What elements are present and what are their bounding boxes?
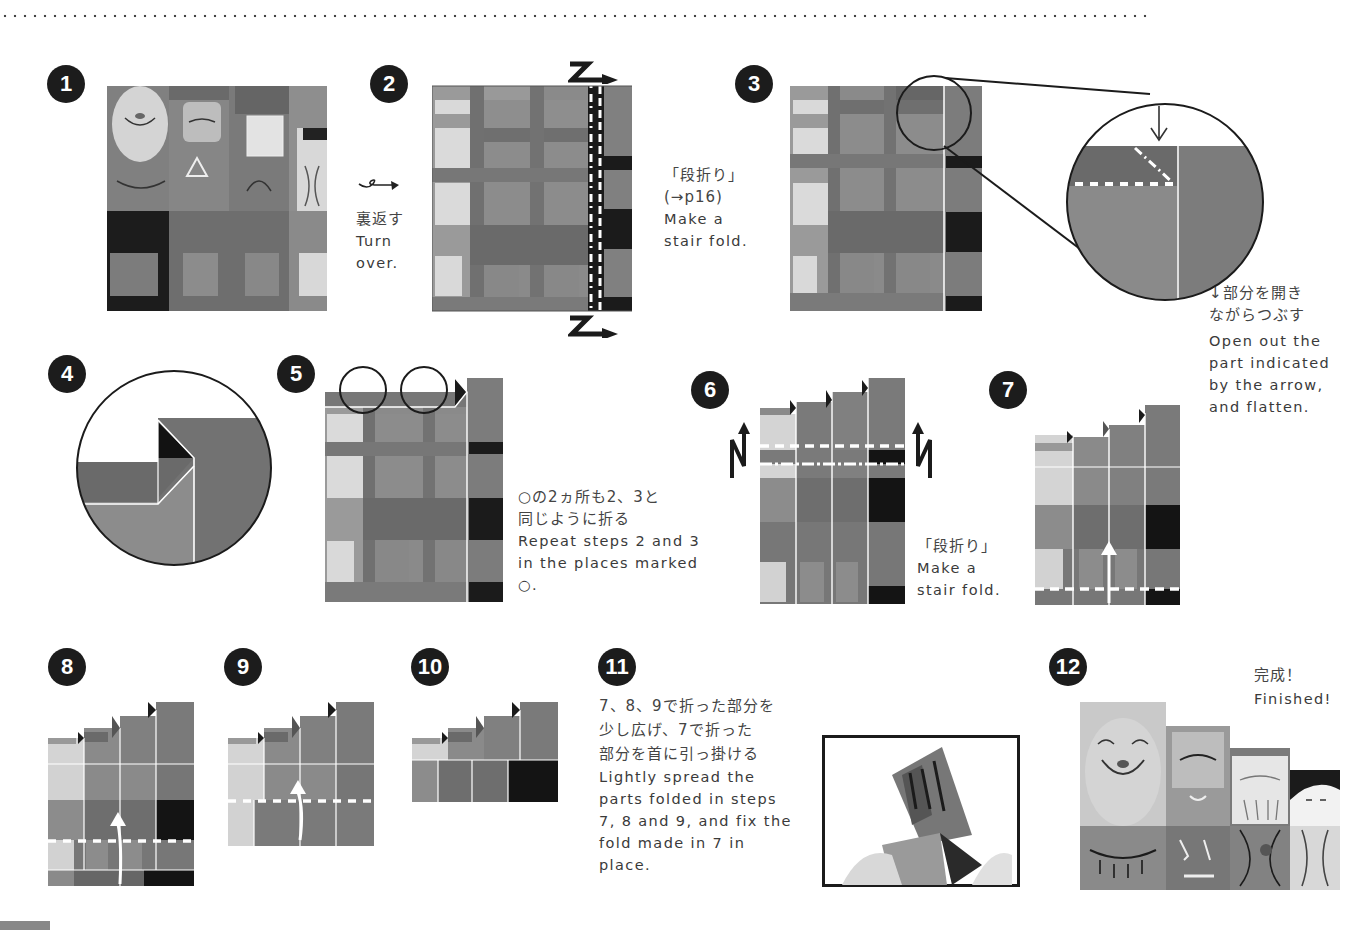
step-4-diagram xyxy=(76,366,276,570)
step-11-jp-1: 7、8、9で折った部分を xyxy=(599,694,792,718)
step-number: 8 xyxy=(61,654,73,680)
step-2-caption: 「段折り」 (→p16) Make a stair fold. xyxy=(664,164,748,252)
step-badge-3: 3 xyxy=(735,65,773,103)
step-number: 11 xyxy=(605,654,628,680)
step-number: 4 xyxy=(61,361,73,387)
step-2-en-1: Make a xyxy=(664,208,748,230)
step-2-page-ref: (→p16) xyxy=(664,186,748,208)
step-badge-12: 12 xyxy=(1049,648,1087,686)
finished-figure-image xyxy=(1080,700,1342,892)
step-number: 5 xyxy=(290,361,302,387)
step-5-en-3: ○. xyxy=(518,574,700,596)
step-11-en-3: 7, 8 and 9, and fix the xyxy=(599,810,792,832)
step-11-en-5: place. xyxy=(599,854,792,876)
step-number: 6 xyxy=(704,377,716,403)
step-11-en-4: fold made in 7 in xyxy=(599,832,792,854)
step-number: 7 xyxy=(1002,377,1014,403)
step-7-diagram xyxy=(1035,405,1180,605)
step-3-jp-1: ↓部分を開き xyxy=(1209,282,1330,304)
turn-over-jp: 裏返す xyxy=(356,208,404,230)
stair-fold-arrow-top-icon xyxy=(568,60,624,84)
step-11-photo xyxy=(822,735,1020,887)
step-number: 12 xyxy=(1056,654,1080,680)
step-3-en-4: and flatten. xyxy=(1209,396,1330,418)
stair-fold-arrow-left-icon xyxy=(728,420,750,480)
step-11-en-2: parts folded in steps xyxy=(599,788,792,810)
step-5-en-1: Repeat steps 2 and 3 xyxy=(518,530,700,552)
step-number: 2 xyxy=(383,71,395,97)
turn-over-en-1: Turn xyxy=(356,230,404,252)
step-8-diagram xyxy=(48,702,194,886)
turn-over-caption: 裏返す Turn over. xyxy=(356,208,404,274)
step-3-caption: ↓部分を開き ながらつぶす Open out the part indicate… xyxy=(1209,282,1330,418)
step-10-diagram xyxy=(412,702,558,802)
step-badge-5: 5 xyxy=(277,355,315,393)
step-badge-6: 6 xyxy=(691,371,729,409)
turn-over-arrow-icon xyxy=(357,178,401,192)
step-6-caption: 「段折り」 Make a stair fold. xyxy=(917,535,1001,601)
step-6-en-1: Make a xyxy=(917,557,1001,579)
step-3-jp-2: ながらつぶす xyxy=(1209,304,1330,326)
step-5-caption: ○の2ヵ所も2、3と 同じように折る Repeat steps 2 and 3 … xyxy=(518,486,700,596)
step-11-jp-2: 少し広げ、7で折った xyxy=(599,718,792,742)
step-5-jp-1: ○の2ヵ所も2、3と xyxy=(518,486,700,508)
step-badge-7: 7 xyxy=(989,371,1027,409)
step-number: 10 xyxy=(418,654,442,680)
step-badge-9: 9 xyxy=(224,648,262,686)
step-11-caption: 7、8、9で折った部分を 少し広げ、7で折った 部分を首に引っ掛ける Light… xyxy=(599,694,792,876)
step-3-en-1: Open out the xyxy=(1209,330,1330,352)
step-6-jp: 「段折り」 xyxy=(917,535,1001,557)
step-9-diagram xyxy=(228,702,374,846)
finished-jp: 完成！ xyxy=(1254,662,1332,688)
step-3-en-2: part indicated xyxy=(1209,352,1330,374)
step-6-diagram xyxy=(760,378,905,604)
step-number: 3 xyxy=(748,71,760,97)
step-2-en-2: stair fold. xyxy=(664,230,748,252)
turn-over-en-2: over. xyxy=(356,252,404,274)
step-2-diagram xyxy=(432,60,632,340)
page-corner-tab xyxy=(0,921,50,930)
step-badge-11: 11 xyxy=(598,648,636,686)
step-number: 1 xyxy=(60,71,72,97)
step-5-en-2: in the places marked xyxy=(518,552,700,574)
step-3-en-3: by the arrow, xyxy=(1209,374,1330,396)
step-5-diagram xyxy=(325,366,505,606)
dotted-separator xyxy=(0,14,1150,18)
step-1-diagram xyxy=(107,86,327,311)
step-badge-1: 1 xyxy=(47,65,85,103)
stair-fold-arrow-bottom-icon xyxy=(568,314,624,338)
step-number: 9 xyxy=(237,654,249,680)
step-badge-2: 2 xyxy=(370,65,408,103)
step-badge-10: 10 xyxy=(411,648,449,686)
step-11-en-1: Lightly spread the xyxy=(599,766,792,788)
stair-fold-arrow-right-icon xyxy=(912,420,934,480)
step-badge-8: 8 xyxy=(48,648,86,686)
step-2-jp: 「段折り」 xyxy=(664,164,748,186)
step-6-en-2: stair fold. xyxy=(917,579,1001,601)
step-5-jp-2: 同じように折る xyxy=(518,508,700,530)
step-11-jp-3: 部分を首に引っ掛ける xyxy=(599,742,792,766)
